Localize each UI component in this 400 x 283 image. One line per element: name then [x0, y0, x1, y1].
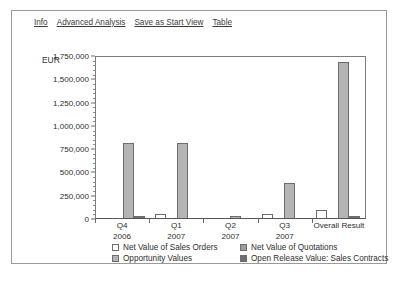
bar-group [150, 57, 204, 218]
bar-groups [96, 57, 365, 218]
bar-chart: EUR 1,750,0001,500,0001,250,0001,000,000… [12, 31, 386, 243]
x-axis-label-line: 2007 [203, 232, 257, 243]
x-axis-separator [203, 219, 204, 223]
x-axis-label-line: Q2 [203, 221, 257, 232]
y-axis-tick-label: 250,000 [60, 191, 89, 200]
y-axis-tick-label: 0 [84, 215, 89, 224]
legend-item[interactable]: Open Release Value: Sales Contracts [240, 254, 378, 263]
info-link[interactable]: Info [34, 18, 48, 28]
legend-swatch [240, 255, 247, 262]
bar[interactable] [262, 214, 273, 218]
legend-label: Open Release Value: Sales Contracts [251, 254, 388, 263]
bar-group [204, 57, 258, 218]
bar[interactable] [123, 143, 134, 218]
legend-swatch [240, 244, 247, 251]
x-axis-label-line: Q4 [95, 221, 149, 232]
bar-group [96, 57, 150, 218]
save-as-start-view-link[interactable]: Save as Start View [134, 18, 203, 28]
x-axis-separator [312, 219, 313, 223]
x-axis-label-line: 2007 [149, 232, 203, 243]
bar[interactable] [230, 216, 241, 218]
bar[interactable] [316, 210, 327, 218]
plot-area [95, 56, 366, 219]
chart-legend: Net Value of Sales OrdersNet Value of Qu… [112, 243, 378, 263]
toolbar: Info Advanced Analysis Save as Start Vie… [34, 16, 232, 30]
advanced-analysis-link[interactable]: Advanced Analysis [57, 18, 126, 28]
legend-label: Opportunity Values [123, 254, 192, 263]
bar[interactable] [284, 183, 295, 218]
bar[interactable] [155, 214, 166, 218]
x-axis-label-line: Overall Result [312, 221, 366, 232]
legend-label: Net Value of Sales Orders [123, 243, 218, 252]
y-axis-tick-label: 1,500,000 [53, 75, 89, 84]
x-axis-label-line: Q1 [149, 221, 203, 232]
legend-swatch [112, 244, 119, 251]
x-axis-label-line: Q3 [258, 221, 312, 232]
table-link[interactable]: Table [212, 18, 232, 28]
y-axis-tick-label: 750,000 [60, 145, 89, 154]
chart-panel: Info Advanced Analysis Save as Start Vie… [11, 10, 387, 264]
y-axis: 1,750,0001,500,0001,250,0001,000,000750,… [12, 56, 95, 219]
legend-item[interactable]: Net Value of Sales Orders [112, 243, 240, 252]
x-axis-label-line: 2006 [95, 232, 149, 243]
legend-label: Net Value of Quotations [251, 243, 337, 252]
bar[interactable] [177, 143, 188, 218]
bar[interactable] [338, 62, 349, 218]
x-axis-label-line: 2007 [258, 232, 312, 243]
legend-item[interactable]: Opportunity Values [112, 254, 240, 263]
bar[interactable] [349, 216, 360, 218]
y-axis-tick-label: 1,000,000 [53, 121, 89, 130]
y-axis-tick-label: 1,250,000 [53, 98, 89, 107]
y-axis-tick-label: 500,000 [60, 168, 89, 177]
legend-item[interactable]: Net Value of Quotations [240, 243, 378, 252]
bar-group [311, 57, 365, 218]
bar[interactable] [134, 216, 145, 218]
y-axis-tick-label: 1,750,000 [53, 52, 89, 61]
legend-swatch [112, 255, 119, 262]
x-axis-separator [149, 219, 150, 223]
x-axis-separator [95, 219, 96, 223]
x-axis-separator [258, 219, 259, 223]
bar-group [257, 57, 311, 218]
